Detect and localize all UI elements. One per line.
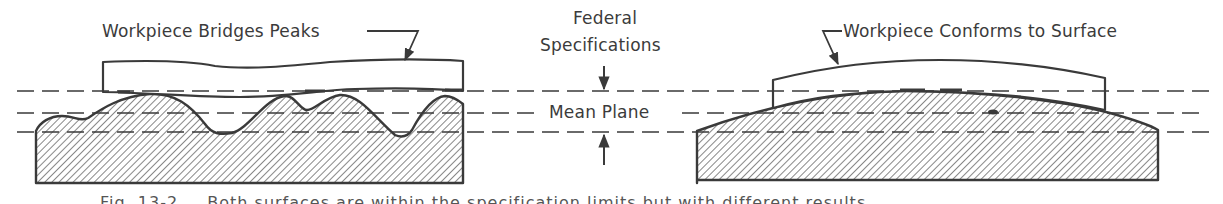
label-workpiece-conforms-to-surface: Workpiece Conforms to Surface [843,21,1117,41]
leader-right [823,31,842,64]
label-specifications: Specifications [540,35,661,55]
label-mean-plane: Mean Plane [545,102,653,122]
leader-left [367,31,418,60]
left-block-rough-surface [36,94,463,183]
figure-caption: Fig. 13-2 … Both surfaces are within the… [100,193,866,204]
surface-flatness-diagram: Workpiece Bridges Peaks Federal Specific… [0,0,1223,204]
label-workpiece-bridges-peaks: Workpiece Bridges Peaks [102,21,320,41]
label-federal: Federal [573,8,637,28]
